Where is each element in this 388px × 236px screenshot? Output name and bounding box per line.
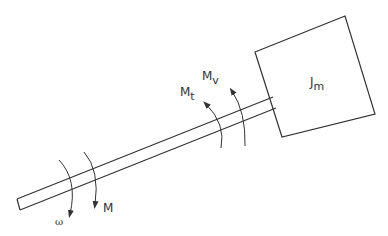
- arrow-M: [84, 152, 96, 205]
- diagram-canvas: Jm Mt Mv M ω: [0, 0, 388, 236]
- inertia-label-sub: m: [314, 80, 325, 93]
- torque-v-label-main: M: [202, 69, 212, 83]
- torque-t-label-main: M: [180, 85, 190, 99]
- omega-label: ω: [55, 217, 63, 227]
- torque-v-label-sub: v: [212, 74, 219, 87]
- inertia-label: Jm: [310, 76, 324, 92]
- arrow-omega: [59, 160, 72, 214]
- shaft: [17, 97, 276, 210]
- diagram-drawing: [0, 0, 388, 236]
- torque-m-label: M: [103, 202, 113, 214]
- torque-v-label: Mv: [202, 70, 219, 86]
- torque-m-label-main: M: [103, 201, 113, 215]
- torque-t-label-sub: t: [190, 90, 194, 103]
- arrow-Mv: [232, 91, 245, 146]
- torque-t-label: Mt: [180, 86, 195, 102]
- arrow-Mt: [206, 104, 222, 148]
- omega-label-main: ω: [55, 216, 63, 227]
